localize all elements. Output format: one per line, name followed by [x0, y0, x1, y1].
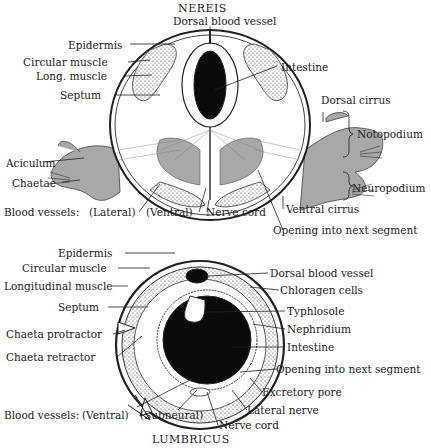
nereis-label-dorsal-blood-vessel: Dorsal blood vessel — [173, 15, 276, 27]
nereis-label-circular-muscle: Circular muscle — [23, 56, 108, 68]
lumbricus-label-chaeta-retractor: Chaeta retractor — [6, 351, 95, 363]
nereis-label-lateral: (Lateral) — [89, 206, 136, 218]
nereis-label-septum: Septum — [60, 89, 101, 101]
nereis-label-chaetae: Chaetae — [12, 177, 56, 189]
lumbricus-label-longitudinal-muscle: Longitudinal muscle — [4, 280, 112, 292]
nereis-label-intestine: Intestine — [281, 61, 328, 73]
lumbricus-label-blood-vessels: Blood vessels: — [4, 409, 79, 421]
lumbricus-label-opening: Opening into next segment — [276, 363, 420, 375]
lumbricus-label-ventral: (Ventral) — [82, 409, 129, 421]
lumbricus-label-septum: Septum — [58, 301, 99, 313]
lumbricus-label-intestine: Intestine — [287, 341, 334, 353]
lumbricus-label-chloragen-cells: Chloragen cells — [280, 284, 363, 296]
lumbricus-label-typhlosole: Typhlosole — [287, 305, 344, 317]
nereis-left-parapodium — [51, 146, 120, 201]
nereis-label-ventral-cirrus: Ventral cirrus — [286, 203, 359, 215]
lumbricus-label-nephridium: Nephridium — [287, 323, 351, 335]
nereis-label-notopodium: Notopodium — [357, 128, 423, 140]
nereis-label-nerve-cord: Nerve cord — [206, 206, 266, 218]
nereis-label-neuropodium: Neuropodium — [352, 182, 425, 194]
nereis-label-dorsal-cirrus: Dorsal cirrus — [321, 94, 391, 106]
lumbricus-label-chaeta-protractor: Chaeta protractor — [6, 328, 102, 340]
nereis-label-aciculum: Aciculum — [6, 157, 56, 169]
nereis-label-ventral: (Ventral) — [146, 206, 193, 218]
lumbricus-label-epidermis: Epidermis — [58, 247, 112, 259]
lumbricus-label-subneural: (Subneural) — [140, 409, 203, 421]
nereis-label-blood-vessels: Blood vessels: — [4, 206, 79, 218]
lumbricus-label-nerve-cord: Nerve cord — [219, 419, 279, 431]
nereis-label-opening: Opening into next segment — [273, 224, 417, 236]
lumbricus-label-circular-muscle: Circular muscle — [22, 262, 107, 274]
lumbricus-label-excretory-pore: Excretory pore — [262, 386, 342, 398]
lumbricus-label-lateral-nerve: Lateral nerve — [247, 404, 319, 416]
nereis-label-epidermis: Epidermis — [68, 39, 122, 51]
lumbricus-label-dorsal-blood-vessel: Dorsal blood vessel — [270, 267, 373, 279]
nereis-label-long-muscle: Long. muscle — [36, 70, 107, 82]
nereis-title: NEREIS — [178, 2, 227, 15]
lumbricus-title: LUMBRICUS — [152, 433, 230, 446]
